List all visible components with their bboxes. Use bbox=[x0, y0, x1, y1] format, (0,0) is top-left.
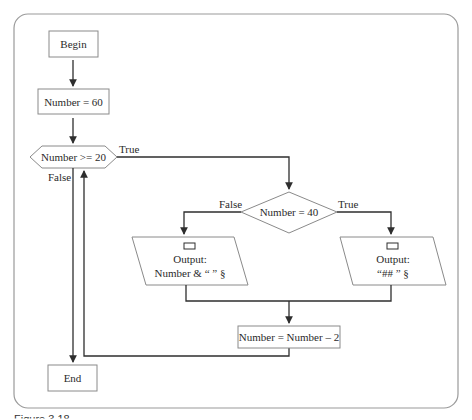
decrement-node: Number = Number – 2 bbox=[238, 326, 340, 348]
check40-label: Number = 40 bbox=[260, 206, 319, 218]
init-node: Number = 60 bbox=[38, 89, 109, 114]
output-false-line2: Number & “ ” § bbox=[155, 267, 226, 279]
output-true-node: Output: “## ” § bbox=[340, 237, 446, 285]
check40-true-label: True bbox=[338, 198, 358, 210]
end-label: End bbox=[64, 372, 82, 384]
loop-false-label: False bbox=[48, 171, 71, 183]
output-false-line1: Output: bbox=[173, 253, 207, 265]
begin-node: Begin bbox=[49, 31, 98, 57]
loop-true-label: True bbox=[119, 143, 139, 155]
end-node: End bbox=[48, 365, 97, 391]
begin-label: Begin bbox=[60, 38, 87, 50]
flowchart-canvas: Begin Number = 60 Number >= 20 True Fals… bbox=[0, 0, 472, 420]
output-screen-icon bbox=[387, 243, 398, 249]
loop-check-node: Number >= 20 bbox=[30, 146, 117, 168]
edge-check40-false bbox=[184, 212, 241, 234]
output-true-line2: “## ” § bbox=[377, 267, 409, 279]
edge-loop-true bbox=[117, 157, 289, 189]
edge-check40-true bbox=[337, 212, 391, 234]
init-label: Number = 60 bbox=[44, 96, 103, 108]
check40-node: Number = 40 bbox=[241, 192, 337, 233]
loop-check-label: Number >= 20 bbox=[41, 151, 106, 163]
decrement-label: Number = Number – 2 bbox=[239, 331, 339, 343]
output-false-node: Output: Number & “ ” § bbox=[132, 237, 248, 285]
output-screen-icon bbox=[184, 243, 195, 249]
check40-false-label: False bbox=[219, 198, 242, 210]
figure-frame bbox=[14, 14, 458, 408]
edge-output-false-merge bbox=[186, 285, 391, 301]
output-true-line1: Output: bbox=[376, 253, 410, 265]
